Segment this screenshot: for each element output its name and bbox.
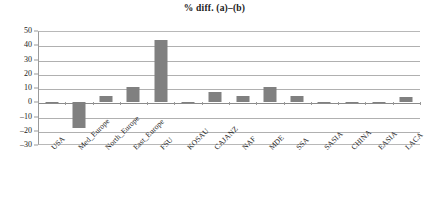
bar-group bbox=[65, 31, 92, 145]
bar-group bbox=[256, 31, 283, 145]
x-tick-mark bbox=[93, 102, 94, 105]
y-tick-label: –30 bbox=[20, 141, 32, 149]
bar bbox=[127, 87, 140, 103]
bar-group bbox=[393, 31, 420, 145]
x-tick-mark bbox=[174, 102, 175, 105]
bar-group bbox=[311, 31, 338, 145]
x-tick-mark bbox=[284, 102, 285, 105]
chart-figure: % diff. (a)–(b) 50403020100–10–20–30 USA… bbox=[0, 0, 429, 212]
x-tick-mark bbox=[147, 102, 148, 105]
bar bbox=[400, 97, 413, 103]
x-tick-mark bbox=[256, 102, 257, 105]
x-tick-mark bbox=[365, 102, 366, 105]
y-tick-label: 10 bbox=[24, 84, 32, 92]
y-tick-label: –10 bbox=[20, 113, 32, 121]
x-tick-mark bbox=[393, 102, 394, 105]
y-tick-label: 50 bbox=[24, 27, 32, 35]
chart-title: % diff. (a)–(b) bbox=[0, 3, 429, 13]
x-tick-mark bbox=[120, 102, 121, 105]
y-tick-label: 40 bbox=[24, 41, 32, 49]
bar bbox=[154, 40, 167, 102]
x-axis-labels: USAMed_EuropeNorth_EuropeEast_EuropeFSUK… bbox=[38, 146, 420, 212]
x-tick-mark bbox=[311, 102, 312, 105]
x-tick-mark bbox=[229, 102, 230, 105]
bar-group bbox=[365, 31, 392, 145]
bar-group bbox=[338, 31, 365, 145]
bar bbox=[263, 87, 276, 103]
x-tick-mark bbox=[38, 102, 39, 105]
bar bbox=[182, 102, 195, 103]
bar-group bbox=[174, 31, 201, 145]
bar bbox=[345, 102, 358, 103]
bar-group bbox=[284, 31, 311, 145]
bar bbox=[318, 102, 331, 103]
y-tick-label: 20 bbox=[24, 70, 32, 78]
bar bbox=[236, 96, 249, 102]
x-tick-mark bbox=[202, 102, 203, 105]
x-tick-mark bbox=[420, 102, 421, 105]
bar bbox=[209, 92, 222, 102]
y-tick-label: –20 bbox=[20, 127, 32, 135]
x-tick-mark bbox=[338, 102, 339, 105]
bar bbox=[45, 102, 58, 103]
bar-group bbox=[38, 31, 65, 145]
y-axis: 50403020100–10–20–30 bbox=[0, 31, 38, 145]
x-tick-mark bbox=[65, 102, 66, 105]
bar bbox=[72, 102, 85, 128]
bar bbox=[373, 102, 386, 103]
y-tick-label: 30 bbox=[24, 56, 32, 64]
y-tick-label: 0 bbox=[28, 98, 32, 106]
bar bbox=[100, 96, 113, 102]
bar bbox=[291, 96, 304, 102]
